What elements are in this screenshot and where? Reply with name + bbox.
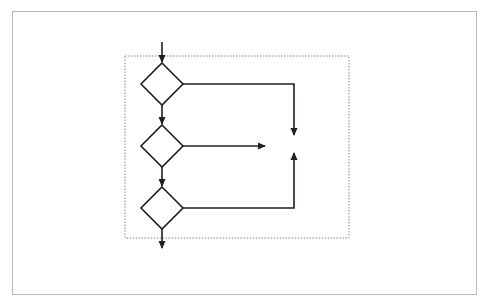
flowchart-lines xyxy=(0,0,488,306)
decision-diamond-1 xyxy=(141,63,183,105)
decision-diamond-2 xyxy=(141,125,183,167)
decision-diamond-3 xyxy=(141,187,183,229)
